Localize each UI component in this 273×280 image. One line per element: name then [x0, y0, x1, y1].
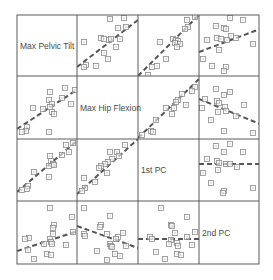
data-point [48, 90, 53, 95]
data-point [60, 153, 65, 158]
data-point [185, 18, 190, 23]
data-point [251, 42, 256, 47]
data-point [105, 258, 110, 263]
data-point [222, 69, 227, 74]
scatter-cell-r0-c1 [77, 16, 138, 70]
data-point [26, 248, 31, 253]
data-point [225, 38, 230, 43]
data-point [200, 106, 205, 111]
data-point [31, 106, 36, 111]
data-point [228, 142, 233, 147]
data-point [210, 64, 215, 69]
data-point [205, 157, 210, 162]
data-point [219, 37, 224, 42]
data-point [113, 252, 118, 257]
data-point [41, 107, 46, 112]
data-point [151, 130, 156, 135]
data-point [52, 112, 57, 117]
data-point [158, 40, 163, 45]
data-point [71, 141, 76, 146]
data-point [121, 231, 126, 236]
data-point [109, 37, 114, 42]
data-point [154, 250, 159, 255]
variable-label: 2nd PC [202, 228, 230, 238]
data-point [108, 17, 113, 22]
data-point [63, 86, 68, 91]
data-point [205, 38, 210, 43]
data-point [110, 245, 115, 250]
data-point [146, 73, 151, 78]
scatter-cell-r2-c3 [199, 142, 260, 196]
data-point [209, 118, 214, 123]
scatter-cell-r1-c3 [199, 87, 260, 136]
data-point [217, 48, 222, 53]
data-point [95, 249, 100, 254]
scatter-cell-r2-c0 [17, 140, 78, 193]
data-point [222, 150, 227, 155]
data-point [49, 253, 54, 258]
scatter-cell-r3-c0 [17, 206, 78, 262]
data-point [228, 16, 233, 21]
data-point [71, 230, 76, 235]
data-point [222, 93, 227, 98]
data-point [48, 206, 53, 211]
data-point [48, 105, 53, 110]
data-point [150, 65, 155, 70]
data-point [97, 166, 102, 171]
data-point [179, 253, 184, 258]
data-point [224, 109, 229, 114]
data-point [241, 150, 246, 155]
data-point [93, 180, 98, 185]
data-point [98, 225, 103, 230]
data-point [241, 18, 246, 23]
data-point [32, 257, 37, 262]
data-point [224, 27, 229, 32]
data-point [185, 215, 190, 220]
data-point [32, 170, 37, 175]
data-point [214, 87, 219, 92]
data-point [82, 40, 87, 45]
data-point [190, 243, 195, 248]
data-point [116, 26, 121, 31]
data-point [172, 106, 177, 111]
data-point [164, 106, 169, 111]
data-point [123, 143, 128, 148]
data-point [228, 162, 233, 167]
data-point [114, 237, 119, 242]
data-point [47, 175, 52, 180]
data-point [47, 130, 52, 135]
data-point [20, 130, 25, 135]
data-point [170, 224, 175, 229]
data-point [20, 188, 25, 193]
data-point [50, 242, 55, 247]
data-point [64, 143, 69, 148]
data-point [140, 133, 145, 138]
data-point [201, 57, 206, 62]
data-point [201, 171, 206, 176]
data-point [235, 165, 240, 170]
data-point [48, 154, 53, 159]
data-point [51, 232, 56, 237]
data-point [209, 181, 214, 186]
scatter-cell-r1-c2 [138, 79, 199, 138]
data-point [216, 168, 221, 173]
data-point [214, 144, 219, 149]
scatter-cell-r3-c2 [138, 206, 199, 262]
data-point [167, 242, 172, 247]
data-point [234, 36, 239, 41]
data-point [82, 176, 87, 181]
variable-label: Max Pelvic Tilt [20, 41, 75, 51]
data-point [106, 57, 111, 62]
data-point [164, 57, 169, 62]
data-point [159, 206, 164, 211]
scatter-cell-r0-c3 [199, 16, 260, 74]
data-point [217, 161, 222, 166]
data-point [105, 232, 110, 237]
data-point [155, 64, 160, 69]
data-point [216, 110, 221, 115]
data-point [118, 37, 123, 42]
data-point [108, 214, 113, 219]
data-point [51, 226, 56, 231]
data-point [122, 16, 127, 21]
data-point [108, 150, 113, 155]
